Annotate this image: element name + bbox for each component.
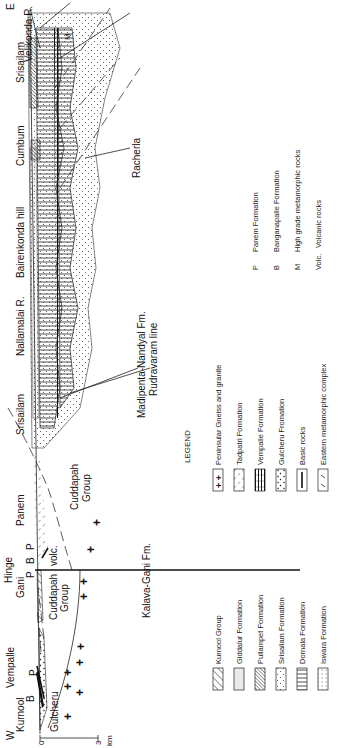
- locality-bairenkonda-hill: Bairenkonda hill: [15, 207, 26, 278]
- svg-text:+ +: + +: [214, 475, 224, 488]
- legend-column-2: + + Peninsular Gneiss and granite Tadpat…: [213, 363, 328, 491]
- legend-abbr-volcanic: Volc. Volcanic rocks: [314, 200, 323, 270]
- unit-p-west: P: [28, 669, 39, 676]
- svg-text:Pullampet Formation: Pullampet Formation: [256, 595, 265, 664]
- east-label: E: [5, 3, 16, 10]
- unit-cuddapah-west-1: Cuddapah: [48, 574, 59, 620]
- svg-text:Volcanic rocks: Volcanic rocks: [314, 200, 323, 248]
- scale-zero: 0: [37, 740, 46, 745]
- depth-scale-bar: 0 3 km: [37, 735, 114, 746]
- unit-m: M: [63, 33, 72, 40]
- locality-nallamalai-river: Nallamalai R.: [15, 297, 26, 356]
- unit-gulcheru: Gulcheru: [49, 691, 60, 732]
- nallamalai-fold-belt: [28, 3, 140, 448]
- kurnool-sliver-gani: [37, 570, 43, 623]
- unit-b-west: B: [25, 695, 36, 702]
- svg-text:Basic rocks: Basic rocks: [298, 426, 307, 465]
- legend-item-giddalur-formation: Giddalur Formation: [234, 600, 244, 690]
- unit-cuddapah-east-2: Group: [81, 474, 92, 502]
- svg-text:+: +: [74, 643, 88, 650]
- svg-text:Srisailam Formation: Srisailam Formation: [277, 597, 286, 664]
- scale-unit: km: [105, 735, 114, 746]
- unit-b-hinge: B: [25, 557, 36, 564]
- svg-text:Eastern metamorphic complex: Eastern metamorphic complex: [319, 363, 328, 465]
- legend-abbr-banganapalle: B Banganapalle Formation: [272, 170, 281, 270]
- unit-p-east: P: [25, 543, 36, 550]
- legend-item-basic-rocks: Basic rocks: [297, 426, 307, 491]
- callout-madipenta-nandyal: Madipenta-Nandyal Fm.: [136, 311, 147, 418]
- svg-text:+: +: [73, 689, 87, 696]
- locality-srisailam-west: Srisailam: [15, 394, 26, 435]
- unit-cuddapah-east-1: Cuddapah: [69, 464, 80, 510]
- legend-item-dornala-formation: Dornala Formation: [297, 602, 307, 690]
- locality-vempalle: Vempalle: [5, 646, 16, 688]
- svg-text:Iswara Formation: Iswara Formation: [319, 606, 328, 664]
- svg-text:+: +: [90, 519, 104, 526]
- legend-item-pullampet-formation: Pullampet Formation: [255, 595, 265, 690]
- legend-abbr-high-grade-metamorphic: M High grade metamorphic rocks: [293, 150, 302, 270]
- callout-rudravaram-line: Rudravaram line: [148, 322, 159, 396]
- legend-item-srisailam-formation: Srisailam Formation: [276, 597, 286, 690]
- svg-text:+: +: [77, 593, 91, 600]
- locality-cumbum: Cumbum: [15, 125, 26, 166]
- locality-panem: Panem: [15, 494, 26, 526]
- locality-kurnool: Kurnool: [15, 698, 26, 732]
- svg-text:Peninsular Gneiss and granite: Peninsular Gneiss and granite: [214, 365, 223, 465]
- legend-item-eastern-metamorphic: Eastern metamorphic complex: [318, 363, 328, 491]
- svg-text:Panem Formation: Panem Formation: [251, 192, 260, 252]
- unit-p-hinge: P: [25, 571, 36, 578]
- locality-gani: Gani: [15, 577, 26, 598]
- scale-three: 3: [94, 740, 103, 745]
- svg-text:+: +: [61, 713, 75, 720]
- callout-kalava-gani: Kalava-Gani Fm.: [141, 543, 152, 618]
- unit-volcanics: volc.: [48, 545, 59, 566]
- svg-text:B: B: [272, 265, 281, 270]
- svg-text:High grade metamorphic rocks: High grade metamorphic rocks: [293, 150, 302, 252]
- svg-text:Vempalle Formation: Vempalle Formation: [256, 398, 265, 465]
- svg-text:Giddalur Formation: Giddalur Formation: [235, 600, 244, 664]
- svg-text:+: +: [84, 546, 98, 553]
- legend-item-iswara-formation: Iswara Formation: [318, 606, 328, 690]
- svg-text:Banganapalle Formation: Banganapalle Formation: [272, 170, 281, 252]
- peninsular-gneiss-crosses: ++ ++ ++ ++ ++: [61, 519, 104, 720]
- legend-title: LEGEND: [183, 430, 192, 463]
- legend-column-3: P Panem Formation B Banganapalle Formati…: [251, 150, 323, 270]
- legend: LEGEND Kurnool Group Giddalur Formation …: [183, 150, 328, 690]
- legend-item-gulcheru-formation: Gulcheru Fromation: [276, 399, 286, 491]
- unit-cuddapah-west-2: Group: [59, 584, 70, 612]
- legend-item-kurnool-group: Kurnool Group: [213, 615, 223, 690]
- svg-text:+: +: [61, 669, 75, 676]
- legend-item-vempalle-formation: Vempalle Formation: [255, 398, 265, 491]
- svg-text:+: +: [73, 659, 87, 666]
- svg-text:Dornala Formation: Dornala Formation: [298, 602, 307, 664]
- svg-text:P: P: [251, 265, 260, 270]
- svg-text:Tadpatri Formation: Tadpatri Formation: [235, 402, 244, 465]
- svg-text:Volc.: Volc.: [314, 254, 323, 270]
- svg-text:Gulcheru Fromation: Gulcheru Fromation: [277, 399, 286, 465]
- panem-slope-strata: [33, 448, 48, 568]
- callout-racherla: Racherla: [131, 138, 142, 178]
- legend-item-tadpatri-formation: Tadpatri Formation: [234, 402, 244, 491]
- legend-column-1: Kurnool Group Giddalur Formation Pullamp…: [213, 595, 328, 690]
- locality-velikonda-range: Velikonda R.: [23, 6, 34, 62]
- legend-item-peninsular-gneiss: + + Peninsular Gneiss and granite: [213, 365, 224, 491]
- svg-text:Kurnool Group: Kurnool Group: [214, 615, 223, 664]
- svg-text:+: +: [77, 578, 91, 585]
- svg-text:M: M: [293, 264, 302, 270]
- legend-abbr-panem: P Panem Formation: [251, 192, 260, 270]
- locality-hinge: Hinge: [3, 556, 14, 583]
- cross-section-figure: W E 0 3 km ++: [0, 0, 349, 748]
